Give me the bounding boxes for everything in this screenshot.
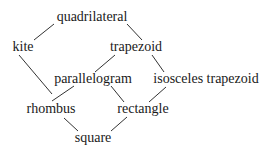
edge-isosceles_trapezoid-rectangle — [149, 87, 166, 102]
node-rhombus: rhombus — [27, 101, 76, 117]
node-square: square — [75, 130, 112, 146]
node-rectangle: rectangle — [117, 101, 168, 117]
quadrilateral-hierarchy-diagram: quadrilateral kite trapezoid parallelogr… — [0, 0, 268, 160]
node-trapezoid: trapezoid — [110, 39, 162, 55]
edge-quadrilateral-kite — [34, 24, 54, 40]
edge-parallelogram-rhombus — [52, 86, 74, 101]
node-isosceles-trapezoid: isosceles trapezoid — [153, 71, 258, 87]
edge-quadrilateral-trapezoid — [127, 24, 142, 40]
edge-rectangle-square — [111, 117, 127, 131]
edge-kite-rhombus — [19, 55, 52, 94]
edge-trapezoid-parallelogram — [95, 55, 115, 72]
edge-trapezoid-isosceles_trapezoid — [152, 55, 164, 72]
node-parallelogram: parallelogram — [54, 71, 132, 87]
edge-parallelogram-rectangle — [111, 86, 124, 102]
node-quadrilateral: quadrilateral — [57, 9, 128, 25]
node-kite: kite — [13, 39, 34, 55]
